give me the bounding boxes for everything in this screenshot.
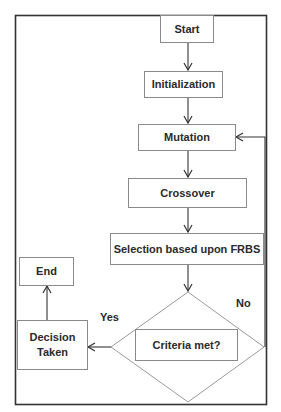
node-decision-taken: Decision Taken [17,320,88,370]
label-no: No [236,297,251,309]
node-mutation: Mutation [138,124,236,151]
node-criteria: Criteria met? [135,329,238,361]
node-end: End [19,257,74,286]
label-yes: Yes [100,311,119,323]
node-crossover: Crossover [128,178,247,208]
node-initialization: Initialization [144,71,223,98]
node-start: Start [160,15,214,43]
node-selection: Selection based upon FRBS [110,233,264,265]
